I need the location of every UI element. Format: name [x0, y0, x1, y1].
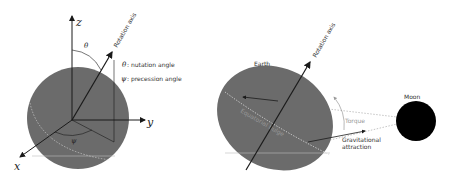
- psi-symbol: ψ: [71, 137, 77, 145]
- y-label: y: [146, 116, 154, 129]
- gravity-label-2: attraction: [342, 143, 372, 150]
- z-label: z: [75, 16, 82, 29]
- rotation-axis-label-left: Rotation axis: [112, 11, 138, 48]
- legend-theta-text: : nutation angle: [127, 61, 175, 69]
- right-panel: Earth Equatorial bulge Rotation axis Gra…: [199, 21, 436, 181]
- gravity-label-1: Gravitational: [342, 136, 381, 143]
- earth-label: Earth: [254, 60, 270, 67]
- theta-symbol: θ: [84, 42, 89, 50]
- rotation-axis-label-right: Rotation axis: [311, 21, 337, 58]
- torque-arrow: [334, 97, 344, 130]
- left-panel: z y x Rotation axis θ ψ θ : nutation ang…: [14, 11, 182, 173]
- legend: θ : nutation angle ψ : precession angle: [121, 61, 182, 83]
- torque-label: Torque: [344, 117, 365, 125]
- precession-diagram: z y x Rotation axis θ ψ θ : nutation ang…: [0, 0, 450, 181]
- earth: [199, 46, 352, 181]
- legend-psi-text: : precession angle: [127, 75, 182, 83]
- moon-label: Moon: [404, 93, 421, 100]
- theta-arc: [72, 50, 101, 70]
- x-label: x: [14, 160, 21, 173]
- moon: [396, 101, 436, 141]
